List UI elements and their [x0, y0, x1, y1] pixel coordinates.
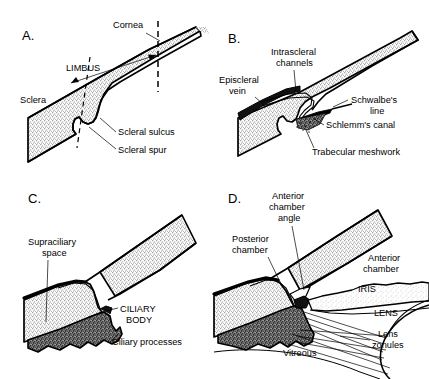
label-ciliary-body-2: BODY [126, 315, 152, 325]
label-anterior-chamber-angle-2: chamber [269, 202, 305, 212]
label-lens-zonules-1: Lens [378, 329, 398, 339]
label-lens-zonules-2: zonules [372, 340, 404, 350]
label-schwalbes-line-1: Schwalbe's [351, 95, 398, 105]
label-supraciliary-space-1: Supraciliary [28, 237, 76, 247]
label-supraciliary-space-2: space [42, 248, 67, 258]
label-scleral-spur: Scleral spur [118, 145, 167, 155]
label-anterior-chamber-angle-3: angle [278, 213, 300, 223]
label-scleral-sulcus: Scleral sulcus [118, 127, 175, 137]
label-schwalbes-line-2: line [370, 106, 384, 116]
label-episcleral-vein-2: vein [229, 86, 246, 96]
panel-d-letter: D. [228, 191, 241, 206]
label-sclera: Sclera [20, 95, 47, 105]
panel-b-letter: B. [228, 31, 240, 46]
anatomy-figure: A. Cornea LIMBUS Sclera Scleral sulcus S… [0, 0, 429, 379]
label-posterior-chamber-1: Posterior [232, 234, 269, 244]
figure-canvas: A. Cornea LIMBUS Sclera Scleral sulcus S… [0, 0, 429, 379]
label-anterior-chamber-1: Anterior [368, 253, 400, 263]
label-trabecular-meshwork: Trabecular meshwork [312, 147, 400, 157]
label-vitreous: Vitreous [283, 348, 317, 358]
label-posterior-chamber-2: chamber [232, 245, 268, 255]
label-ciliary-processes: Ciliary processes [112, 337, 182, 347]
label-iris: IRIS [358, 284, 376, 294]
label-limbus: LIMBUS [66, 63, 100, 73]
label-ciliary-body-1: CILIARY [120, 304, 156, 314]
label-intrascleral-channels-1: Intrascleral [271, 47, 316, 57]
panel-a-letter: A. [22, 28, 34, 43]
panel-c-letter: C. [28, 191, 41, 206]
label-intrascleral-channels-2: channels [276, 58, 313, 68]
label-anterior-chamber-2: chamber [363, 264, 399, 274]
label-anterior-chamber-angle-1: Anterior [272, 191, 304, 201]
label-episcleral-vein-1: Episcleral [219, 75, 259, 85]
label-cornea: Cornea [113, 20, 144, 30]
label-schlemms-canal: Schlemm's canal [326, 120, 395, 130]
label-lens: LENS [374, 308, 398, 318]
